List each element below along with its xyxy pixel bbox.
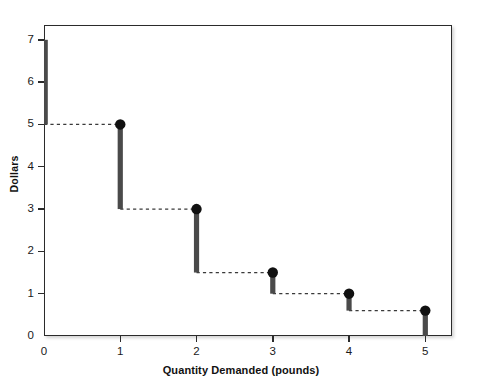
x-tick-label: 2 xyxy=(185,345,209,357)
data-point-marker xyxy=(420,305,430,315)
x-tick-mark xyxy=(425,336,427,342)
y-tick-label: 6 xyxy=(14,75,34,87)
y-tick-mark xyxy=(38,293,44,295)
y-tick-mark xyxy=(38,81,44,83)
y-tick-label: 5 xyxy=(14,117,34,129)
y-tick-mark xyxy=(38,39,44,41)
x-tick-label: 0 xyxy=(32,345,56,357)
value-bar xyxy=(118,124,123,209)
x-tick-mark xyxy=(272,336,274,342)
data-point-marker xyxy=(115,119,125,129)
x-tick-mark xyxy=(196,336,198,342)
x-tick-label: 1 xyxy=(108,345,132,357)
x-tick-label: 5 xyxy=(413,345,437,357)
y-tick-label: 0 xyxy=(14,329,34,341)
y-tick-mark xyxy=(38,166,44,168)
data-point-marker xyxy=(268,267,278,277)
y-tick-label: 7 xyxy=(14,33,34,45)
y-axis-title: Dollars xyxy=(8,144,20,204)
x-tick-label: 3 xyxy=(261,345,285,357)
value-bar xyxy=(44,40,48,125)
y-tick-label: 2 xyxy=(14,244,34,256)
demand-curve-chart: 01234567 Dollars 012345 Quantity Demande… xyxy=(0,0,482,389)
y-tick-mark xyxy=(38,124,44,126)
x-tick-mark xyxy=(120,336,122,342)
y-tick-mark xyxy=(38,251,44,253)
x-tick-mark xyxy=(348,336,350,342)
plot-svg xyxy=(44,25,452,336)
y-tick-label: 1 xyxy=(14,287,34,299)
data-point-marker xyxy=(191,204,201,214)
x-tick-label: 4 xyxy=(337,345,361,357)
x-axis-title: Quantity Demanded (pounds) xyxy=(0,364,482,376)
plot-surface xyxy=(44,25,452,336)
y-tick-mark xyxy=(38,208,44,210)
y-axis-group: 01234567 xyxy=(0,0,44,389)
value-bar xyxy=(194,209,199,272)
data-point-marker xyxy=(344,288,354,298)
